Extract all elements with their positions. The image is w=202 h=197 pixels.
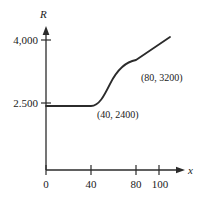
x-tick-label-100: 100 xyxy=(152,178,169,190)
y-tick-label-upper: 4,000 xyxy=(13,34,38,46)
y-axis-label: R xyxy=(39,8,47,20)
plot-canvas: R x 4,000 2.500 0 40 80 100 (40, 2400) (… xyxy=(0,0,202,197)
x-axis-arrowhead xyxy=(176,167,185,173)
y-tick-label-lower: 2.500 xyxy=(13,97,38,109)
y-axis-arrowhead xyxy=(43,26,50,35)
graph-figure: R x 4,000 2.500 0 40 80 100 (40, 2400) (… xyxy=(0,0,202,197)
annotation-point-40-2400: (40, 2400) xyxy=(97,109,139,121)
x-tick-label-0: 0 xyxy=(43,178,49,190)
x-axis-label: x xyxy=(187,164,193,176)
annotation-point-80-3200: (80, 3200) xyxy=(141,72,183,84)
x-tick-label-40: 40 xyxy=(86,178,98,190)
x-tick-label-80: 80 xyxy=(131,178,143,190)
